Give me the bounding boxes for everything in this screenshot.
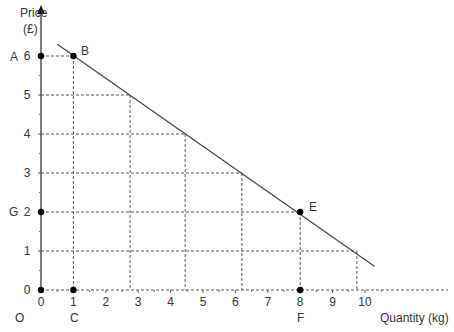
x-tick-label: 1 (70, 295, 77, 309)
point-O (38, 287, 44, 293)
y-tick-label: 2 (24, 205, 31, 219)
point-G (38, 209, 44, 215)
y-tick-label: 0 (24, 283, 31, 297)
label-G: G (9, 205, 18, 219)
x-tick-label: 2 (102, 295, 109, 309)
y-tick-label: 4 (24, 127, 31, 141)
x-tick-label: 9 (329, 295, 336, 309)
x-tick-label: 10 (358, 295, 372, 309)
demand-line (57, 44, 375, 266)
label-E: E (309, 200, 317, 214)
label-C: C (70, 311, 79, 325)
x-axis-label: Quantity (kg) (380, 311, 449, 325)
point-B (70, 53, 76, 59)
x-tick-label: 3 (135, 295, 142, 309)
x-tick-label: 6 (232, 295, 239, 309)
point-F (297, 287, 303, 293)
x-tick-label: 0 (38, 295, 45, 309)
y-tick-label: 3 (24, 166, 31, 180)
x-tick-label: 7 (264, 295, 271, 309)
label-B: B (81, 44, 89, 58)
point-C (70, 287, 76, 293)
demand-curve (57, 44, 375, 266)
y-tick-label: 5 (24, 88, 31, 102)
label-O: O (15, 311, 24, 325)
label-A: A (10, 50, 18, 64)
x-tick-label: 5 (200, 295, 207, 309)
ticks: 0123456012345678910 (24, 49, 382, 309)
y-tick-label: 6 (24, 49, 31, 63)
point-A (38, 53, 44, 59)
y-tick-label: 1 (24, 244, 31, 258)
axes (37, 5, 45, 290)
demand-curve-diagram: 0123456012345678910 Price (£) Quantity (… (0, 0, 454, 332)
dashed-guides (41, 56, 448, 290)
x-tick-label: 8 (297, 295, 304, 309)
y-axis-label-line2: (£) (23, 22, 38, 36)
label-F: F (297, 311, 304, 325)
point-E (297, 209, 303, 215)
x-tick-label: 4 (167, 295, 174, 309)
y-axis-label-line1: Price (20, 6, 48, 20)
